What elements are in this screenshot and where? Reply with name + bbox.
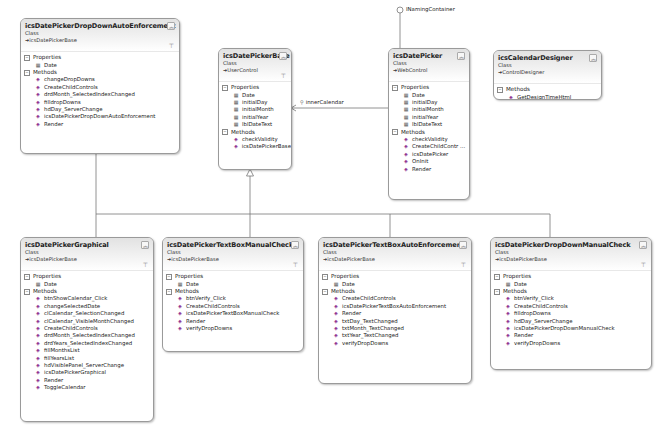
method-item[interactable]: ◈hdDay_ServerChange: [491, 318, 651, 325]
class-kind: Class: [323, 249, 467, 256]
filter-icon[interactable]: ⊤: [143, 261, 148, 268]
properties-section-toggle[interactable]: −Properties: [21, 273, 153, 281]
method-item[interactable]: ◈filldropDowns: [21, 99, 179, 106]
method-item[interactable]: ◈ToggleCalendar: [21, 384, 153, 391]
class-box-date-picker-base[interactable]: icsDatePickerBase Class ➜UserControl ︽ ⊤…: [218, 48, 292, 170]
class-box-date-picker[interactable]: icsDatePicker Class ➜WebControl ︽ −Prope…: [388, 48, 470, 200]
method-item[interactable]: ◈clCalendar_VisibleMonthChanged: [21, 318, 153, 325]
method-item[interactable]: ◈CreateChildControls: [319, 295, 471, 302]
method-item[interactable]: ◈CreateChildControls: [491, 303, 651, 310]
methods-section-toggle[interactable]: −Methods: [21, 69, 179, 77]
property-item[interactable]: ▦initialYear: [389, 114, 469, 121]
method-item[interactable]: ◈changeDropDowns: [21, 76, 179, 83]
double-chevron-up-icon[interactable]: ︽: [291, 241, 299, 249]
method-item[interactable]: ◈drdMonth_SelectedIndexChanged: [21, 91, 179, 98]
method-item[interactable]: ◈txtMonth_TextChanged: [319, 325, 471, 332]
properties-section-toggle[interactable]: −Properties: [21, 54, 179, 62]
properties-section-toggle[interactable]: −Properties: [389, 84, 469, 92]
method-item[interactable]: ◈icsDatePickerTextBoxManualCheck: [163, 310, 303, 317]
double-chevron-up-icon[interactable]: ︽: [457, 52, 465, 60]
property-item[interactable]: ▦lblDateText: [219, 121, 291, 128]
method-item[interactable]: ◈CreateChildControls: [163, 303, 303, 310]
method-item[interactable]: ◈Render: [389, 166, 469, 173]
method-item[interactable]: ◈Render: [491, 332, 651, 339]
method-item[interactable]: ◈drdYears_SelectedIndexChanged: [21, 340, 153, 347]
double-chevron-up-icon[interactable]: ︽: [459, 241, 467, 249]
methods-section-toggle[interactable]: −Methods: [219, 129, 291, 137]
method-item[interactable]: ◈icsDatePickerDropDownAutoEnforcement: [21, 113, 179, 120]
method-item[interactable]: ◈Render: [21, 377, 153, 384]
methods-section-toggle[interactable]: −Methods: [21, 288, 153, 296]
method-item[interactable]: ◈verifyDropDowns: [491, 340, 651, 347]
method-item[interactable]: ◈txtDay_TextChanged: [319, 318, 471, 325]
property-item[interactable]: ▦initialMonth: [389, 106, 469, 113]
double-chevron-up-icon[interactable]: ︽: [589, 54, 597, 62]
properties-section-toggle[interactable]: −Properties: [163, 273, 303, 281]
method-item[interactable]: ◈verifyDropDowns: [163, 325, 303, 332]
property-item[interactable]: ▦Date: [21, 281, 153, 288]
method-item[interactable]: ◈icsDatePickerBase: [219, 143, 291, 150]
method-item[interactable]: ◈txtYear_TextChanged: [319, 332, 471, 339]
method-item[interactable]: ◈fillYearsList: [21, 355, 153, 362]
property-item[interactable]: ▦Date: [389, 92, 469, 99]
property-item[interactable]: ▦Date: [219, 92, 291, 99]
method-item[interactable]: ◈Render: [21, 121, 179, 128]
double-chevron-up-icon[interactable]: ︽: [167, 22, 175, 30]
method-item[interactable]: ◈Render: [319, 310, 471, 317]
property-item[interactable]: ▦initialMonth: [219, 106, 291, 113]
method-item[interactable]: ◈verifyDropDowns: [319, 340, 471, 347]
method-item[interactable]: ◈drdMonth_SelectedIndexChanged: [21, 332, 153, 339]
property-item[interactable]: ▦initialDay: [389, 99, 469, 106]
method-item[interactable]: ◈CreateChildContr ...: [389, 143, 469, 150]
method-item[interactable]: ◈GetDesignTimeHtml: [494, 94, 601, 101]
method-item[interactable]: ◈hdVisiblePanel_ServerChange: [21, 362, 153, 369]
class-box-textbox-auto-enforcement[interactable]: icsDatePickerTextBoxAutoEnforcement Clas…: [318, 237, 472, 384]
class-box-textbox-manual-check[interactable]: icsDatePickerTextBoxManualCheck Class ➜i…: [162, 237, 304, 352]
properties-section-toggle[interactable]: −Properties: [491, 273, 651, 281]
method-item[interactable]: ◈btnVerify_Click: [163, 295, 303, 302]
methods-section-toggle[interactable]: −Methods: [163, 288, 303, 296]
filter-icon[interactable]: ⊤: [169, 42, 174, 49]
property-item[interactable]: ▦initialYear: [219, 114, 291, 121]
methods-section-toggle[interactable]: −Methods: [494, 86, 601, 94]
property-item[interactable]: ▦lblDateText: [389, 121, 469, 128]
method-item[interactable]: ◈filldropDowns: [491, 310, 651, 317]
class-box-dropdown-auto-enforcement[interactable]: icsDatePickerDropDownAutoEnforcement Cla…: [20, 18, 180, 154]
method-item[interactable]: ◈fillMonthsList: [21, 347, 153, 354]
method-item[interactable]: ◈hdDay_ServerChange: [21, 106, 179, 113]
method-item[interactable]: ◈Render: [163, 318, 303, 325]
method-item[interactable]: ◈icsDatePickerGraphical: [21, 369, 153, 376]
property-item[interactable]: ▦Date: [163, 281, 303, 288]
methods-section-toggle[interactable]: −Methods: [319, 288, 471, 296]
method-item[interactable]: ◈checkValidity: [389, 136, 469, 143]
method-item[interactable]: ◈icsDatePickerDropDownManualCheck: [491, 325, 651, 332]
property-item[interactable]: ▦Date: [491, 281, 651, 288]
methods-section-toggle[interactable]: −Methods: [389, 129, 469, 137]
properties-section-toggle[interactable]: −Properties: [319, 273, 471, 281]
method-item[interactable]: ◈clCalendar_SelectionChanged: [21, 310, 153, 317]
class-box-calendar-designer[interactable]: icsCalendarDesigner Class ➜ControlDesign…: [493, 50, 602, 100]
filter-icon[interactable]: ⊤: [461, 261, 466, 268]
double-chevron-up-icon[interactable]: ︽: [639, 241, 647, 249]
filter-icon[interactable]: ⊤: [281, 72, 286, 79]
property-item[interactable]: ▦Date: [21, 62, 179, 69]
property-item[interactable]: ▦Date: [319, 281, 471, 288]
method-item[interactable]: ◈checkValidity: [219, 136, 291, 143]
method-item[interactable]: ◈changeSelectedDate: [21, 303, 153, 310]
filter-icon[interactable]: ⊤: [641, 261, 646, 268]
method-item[interactable]: ◈btnVerify_Click: [491, 295, 651, 302]
class-box-dropdown-manual-check[interactable]: icsDatePickerDropDownManualCheck Class ➜…: [490, 237, 652, 370]
method-item[interactable]: ◈btnShowCalendar_Click: [21, 295, 153, 302]
method-item[interactable]: ◈OnInit: [389, 158, 469, 165]
filter-icon[interactable]: ⊤: [293, 261, 298, 268]
method-item[interactable]: ◈CreateChildControls: [21, 325, 153, 332]
double-chevron-up-icon[interactable]: ︽: [279, 52, 287, 60]
method-item[interactable]: ◈CreateChildControls: [21, 84, 179, 91]
method-item[interactable]: ◈icsDatePickerTextBoxAutoEnforcement: [319, 303, 471, 310]
methods-section-toggle[interactable]: −Methods: [491, 288, 651, 296]
class-box-graphical[interactable]: icsDatePickerGraphical Class ➜icsDatePic…: [20, 237, 154, 422]
properties-section-toggle[interactable]: −Properties: [219, 84, 291, 92]
method-item[interactable]: ◈icsDatePicker: [389, 151, 469, 158]
double-chevron-up-icon[interactable]: ︽: [141, 241, 149, 249]
property-item[interactable]: ▦initialDay: [219, 99, 291, 106]
